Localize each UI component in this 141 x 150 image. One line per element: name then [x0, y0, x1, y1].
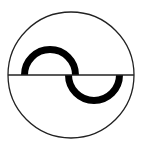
- ac-symbol-graphic: [0, 0, 141, 150]
- ac-symbol: [0, 0, 141, 150]
- sine-wave-lower-arc: [69, 75, 120, 101]
- sine-wave-upper-arc: [25, 50, 76, 75]
